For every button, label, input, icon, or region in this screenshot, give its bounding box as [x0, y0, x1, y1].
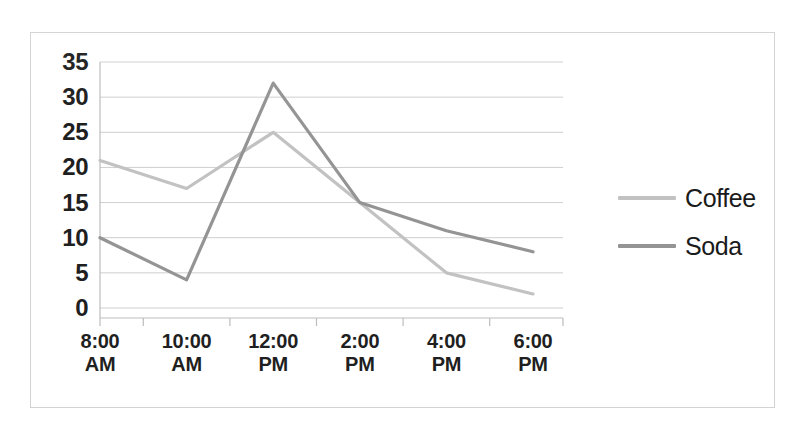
axis-lines [100, 62, 563, 318]
y-axis-tick-label: 5 [32, 261, 88, 285]
x-label-time: 4:00 [427, 330, 466, 352]
y-axis-tick-label: 15 [32, 191, 88, 215]
y-axis-tick-label: 10 [32, 226, 88, 250]
y-axis-tick-label: 20 [32, 155, 88, 179]
x-label-time: 10:00 [162, 330, 212, 352]
y-axis-tick-label: 25 [32, 120, 88, 144]
y-axis-tick-label: 0 [32, 296, 88, 320]
x-axis-tick-label: 6:00PM [487, 330, 579, 376]
x-label-meridiem: PM [314, 353, 406, 376]
x-axis-tick-marks [100, 318, 563, 326]
legend-item-coffee[interactable]: Coffee [618, 183, 756, 213]
x-label-meridiem: PM [400, 353, 492, 376]
y-axis-tick-label: 30 [32, 85, 88, 109]
x-axis-tick-label: 10:00AM [141, 330, 233, 376]
x-axis-tick-label: 8:00AM [54, 330, 146, 376]
x-label-time: 2:00 [340, 330, 379, 352]
x-label-meridiem: PM [487, 353, 579, 376]
legend-item-soda[interactable]: Soda [618, 231, 742, 261]
x-label-meridiem: AM [141, 353, 233, 376]
x-axis-tick-label: 12:00PM [227, 330, 319, 376]
x-label-meridiem: AM [54, 353, 146, 376]
legend-color-swatch [618, 244, 676, 248]
legend-label: Coffee [685, 186, 756, 211]
data-series-lines [100, 83, 533, 294]
x-axis-tick-label: 4:00PM [400, 330, 492, 376]
x-label-time: 8:00 [81, 330, 120, 352]
beverage-sales-line-chart: 35302520151050 8:00AM10:00AM12:00PM2:00P… [0, 0, 800, 428]
y-axis-tick-label: 35 [32, 50, 88, 74]
x-label-time: 6:00 [514, 330, 553, 352]
x-label-time: 12:00 [248, 330, 298, 352]
x-label-meridiem: PM [227, 353, 319, 376]
legend-label: Soda [685, 234, 742, 259]
legend-color-swatch [618, 196, 676, 200]
x-axis-tick-label: 2:00PM [314, 330, 406, 376]
